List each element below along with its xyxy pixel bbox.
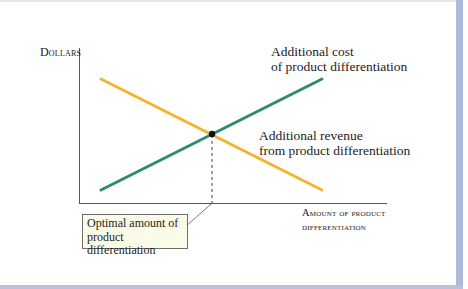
cost-label-line1: Additional cost — [271, 44, 407, 59]
revenue-label-line2: from product differentiation — [259, 143, 410, 158]
revenue-label-line1: Additional revenue — [259, 128, 410, 143]
callout-line2: product differentiation — [87, 231, 187, 258]
callout-line1: Optimal amount of — [87, 217, 187, 231]
x-axis-label-line2: differentiation — [302, 220, 386, 234]
y-axis-label: Dollars — [40, 44, 81, 60]
intersection-point — [209, 131, 215, 137]
cost-label-line2: of product differentiation — [271, 59, 407, 74]
revenue-line-label: Additional revenue from product differen… — [259, 128, 410, 158]
x-axis-label: Amount of product differentiation — [302, 206, 386, 234]
callout-leader — [184, 204, 211, 228]
x-axis-label-line1: Amount of product — [302, 206, 386, 220]
cost-line-label: Additional cost of product differentiati… — [271, 44, 407, 74]
optimal-callout-box: Optimal amount of product differentiatio… — [82, 214, 188, 249]
